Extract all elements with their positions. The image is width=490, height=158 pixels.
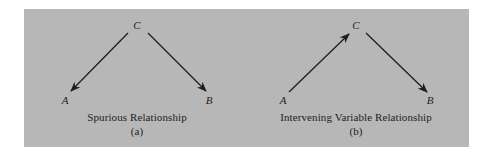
arrow-c-to-b — [148, 33, 206, 91]
node-a-b: A — [280, 94, 287, 106]
node-c-b: C — [352, 19, 359, 31]
sublabel-b: (b) — [349, 125, 362, 137]
arrows-layer — [0, 0, 490, 158]
node-a-a: A — [62, 94, 69, 106]
node-b-b: B — [427, 94, 434, 106]
caption-a: Spurious Relationship — [87, 111, 187, 123]
caption-b: Intervening Variable Relationship — [280, 111, 432, 123]
arrow-c-to-b-b — [366, 33, 427, 92]
arrow-c-to-a — [71, 33, 128, 91]
node-c-a: C — [133, 19, 140, 31]
arrow-a-to-c — [289, 34, 349, 92]
node-b-a: B — [206, 94, 213, 106]
sublabel-a: (a) — [131, 125, 144, 137]
